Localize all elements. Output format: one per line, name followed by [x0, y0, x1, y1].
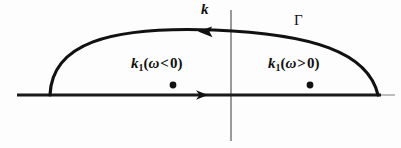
pole-marker-right [307, 82, 314, 89]
pole-label-left-relation: < [159, 55, 170, 71]
axis-label-k: k [201, 2, 209, 17]
pole-label-left-subscript: 1 [139, 62, 144, 73]
pole-label-right-subscript: 1 [276, 62, 281, 73]
pole-label-right-relation: > [296, 55, 307, 71]
pole-label-left: k1(ω<0) [131, 56, 182, 71]
pole-label-right-close-paren: ) [314, 55, 319, 71]
figure-canvas [0, 0, 401, 148]
contour-arc-gamma [50, 29, 378, 95]
pole-label-left-symbol: k [131, 55, 139, 71]
pole-label-right-variable: ω [286, 55, 297, 71]
contour-label-gamma: Γ [294, 13, 303, 28]
pole-label-right: k1(ω>0) [268, 56, 319, 71]
pole-label-left-close-paren: ) [177, 55, 182, 71]
pole-label-right-symbol: k [268, 55, 276, 71]
pole-marker-left [170, 82, 177, 89]
contour-integration-figure: k Γ k1(ω<0) k1(ω>0) [0, 0, 401, 148]
pole-label-left-variable: ω [149, 55, 160, 71]
